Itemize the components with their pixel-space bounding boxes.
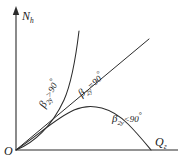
- beta-value: 90: [130, 114, 139, 124]
- origin-label: O: [4, 145, 13, 157]
- x-axis-label: Qг: [155, 136, 166, 151]
- y-axis-label: Nh: [22, 10, 34, 25]
- y-axis: [13, 6, 19, 150]
- degree-symbol: °: [139, 111, 142, 120]
- x-axis-subscript: г: [164, 142, 167, 151]
- y-axis-subscript: h: [30, 16, 34, 25]
- characteristic-curve-figure: Nh Qг O β2у>90° β2у=90° β2у<90°: [0, 0, 181, 166]
- beta-subscript: 2у: [117, 119, 123, 127]
- curve-label-beta-less-than-90: β2у<90°: [112, 112, 142, 127]
- x-axis-symbol: Q: [155, 135, 164, 149]
- y-axis-symbol: N: [22, 9, 30, 23]
